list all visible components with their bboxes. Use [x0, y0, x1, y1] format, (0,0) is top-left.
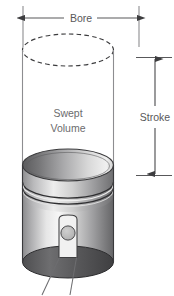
piston-diagram: Bore Swept Volume Stroke [0, 0, 174, 296]
wrist-pin-hole-circle [61, 226, 75, 240]
swept-volume-label-line1: Swept [53, 107, 82, 119]
swept-volume-label-group: Swept Volume [50, 107, 85, 134]
bore-dimension-group: Bore [23, 6, 139, 47]
stroke-dimension-group: Stroke [136, 58, 172, 176]
swept-volume-label-line2: Volume [50, 122, 85, 134]
bore-label: Bore [70, 12, 92, 24]
piston-group [23, 149, 114, 295]
stroke-label: Stroke [140, 111, 171, 123]
engine-cylinder-figure: Bore Swept Volume Stroke [0, 0, 174, 296]
cylinder-top-dashed-ellipse [23, 34, 114, 66]
piston-crown-top-ellipse [23, 149, 114, 181]
